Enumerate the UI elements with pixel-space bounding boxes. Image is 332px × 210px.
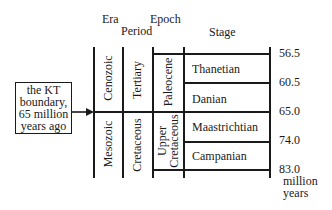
age-65-0: 65.0 xyxy=(279,104,300,119)
period-cretaceous: Cretaceous xyxy=(131,118,143,171)
stage-thanetian: Thanetian xyxy=(192,62,240,77)
boundary-line-83-0 xyxy=(152,169,271,171)
epoch-upper-cretaceous: Upper Cretaceous xyxy=(156,114,180,167)
era-cenozoic: Cenozoic xyxy=(102,55,114,100)
header-stage: Stage xyxy=(209,25,236,40)
period-tertiary: Tertiary xyxy=(131,61,143,99)
header-era: Era xyxy=(102,12,119,27)
kt-line-4: years ago xyxy=(16,120,71,132)
age-56-5: 56.5 xyxy=(279,46,300,61)
kt-boundary-annotation: the KT boundary, 65 million years ago xyxy=(15,82,72,134)
epoch-cretaceous-label: Cretaceous xyxy=(168,114,180,167)
header-period: Period xyxy=(121,24,152,39)
era-mesozoic: Mesozoic xyxy=(102,121,114,168)
boundary-line-56-5 xyxy=(152,53,271,55)
boundary-line-60-5 xyxy=(183,82,271,84)
stage-maastrichtian: Maastrichtian xyxy=(192,120,258,135)
stage-campanian: Campanian xyxy=(192,149,247,164)
age-74-0: 74.0 xyxy=(279,133,300,148)
stage-danian: Danian xyxy=(192,92,227,107)
age-60-5: 60.5 xyxy=(279,75,300,90)
age-unit-years: years xyxy=(283,186,308,201)
epoch-paleocene: Paleocene xyxy=(162,58,174,107)
header-epoch: Epoch xyxy=(150,12,181,27)
kt-boundary-line xyxy=(93,111,271,113)
arrow-icon xyxy=(72,106,96,118)
boundary-line-74-0 xyxy=(183,141,271,143)
